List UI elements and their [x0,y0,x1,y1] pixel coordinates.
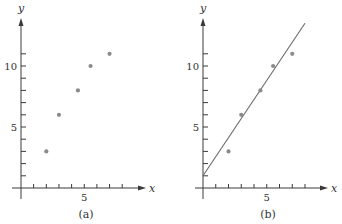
y-axis-arrow-icon [201,18,206,26]
panel-label: (b) [260,208,276,221]
x-axis-label: x [331,182,338,195]
x-tick-label: 5 [264,192,270,203]
x-axis-arrow-icon [320,186,328,191]
y-tick-label: 10 [186,61,199,72]
scatter-panel-b: xy5510(b) [0,0,342,224]
data-point [226,149,230,153]
data-point [239,113,243,117]
regression-line [203,23,305,176]
y-tick-label: 5 [193,122,199,133]
data-point [271,64,275,68]
figure: xy5510(a) xy5510(b) [0,0,342,224]
data-point [290,52,294,56]
y-axis-label: y [199,2,207,15]
data-point [258,88,262,92]
